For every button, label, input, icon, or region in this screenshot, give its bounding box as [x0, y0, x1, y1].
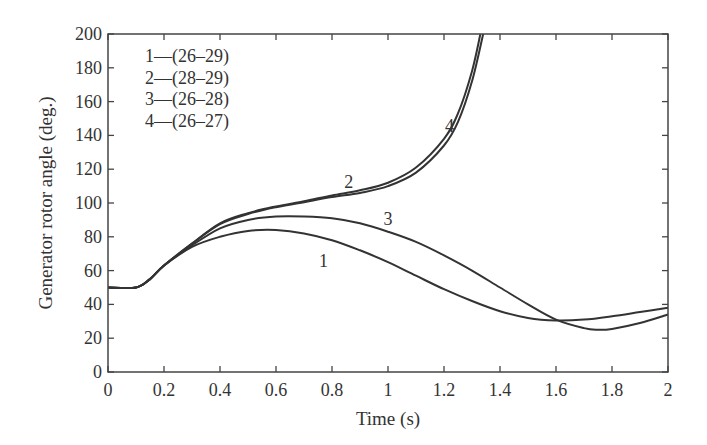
series-3-label: 3 [384, 209, 393, 229]
x-tick-label: 0.8 [321, 380, 344, 400]
x-tick-label: 1.8 [601, 380, 624, 400]
y-tick-label: 60 [84, 261, 102, 281]
legend-entry: 4—(26–27) [145, 111, 229, 132]
series-3-line [108, 216, 668, 330]
y-tick-label: 40 [84, 294, 102, 314]
x-tick-label: 0.6 [265, 380, 288, 400]
y-tick-label: 20 [84, 328, 102, 348]
x-tick-label: 0 [104, 380, 113, 400]
x-tick-label: 0.4 [209, 380, 232, 400]
y-tick-label: 100 [75, 193, 102, 213]
y-axis-label: Generator rotor angle (deg.) [35, 96, 57, 309]
x-tick-label: 1.4 [489, 380, 512, 400]
y-tick-label: 120 [75, 159, 102, 179]
legend-entry: 1—(26–29) [145, 46, 229, 67]
y-tick-label: 0 [93, 362, 102, 382]
x-tick-label: 2 [664, 380, 673, 400]
series-2-label: 2 [344, 172, 353, 192]
series-1-label: 1 [319, 251, 328, 271]
y-tick-label: 180 [75, 58, 102, 78]
y-tick-label: 80 [84, 227, 102, 247]
x-axis-label: Time (s) [356, 408, 420, 430]
series-4-label: 4 [445, 116, 454, 136]
y-tick-label: 160 [75, 92, 102, 112]
legend-entry: 3—(26–28) [145, 89, 229, 110]
x-tick-label: 1.6 [545, 380, 568, 400]
y-tick-label: 200 [75, 24, 102, 44]
x-tick-label: 1 [384, 380, 393, 400]
x-tick-label: 0.2 [153, 380, 176, 400]
legend: 1—(26–29)2—(28–29)3—(26–28)4—(26–27) [145, 46, 229, 132]
x-tick-label: 1.2 [433, 380, 456, 400]
y-tick-label: 140 [75, 125, 102, 145]
legend-entry: 2—(28–29) [145, 68, 229, 89]
line-chart: 1234 00.20.40.60.811.21.41.61.82 0204060… [0, 0, 707, 445]
